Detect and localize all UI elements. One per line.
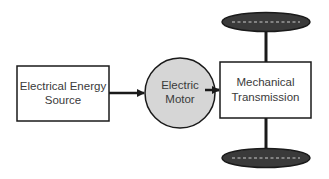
bottom-wheel bbox=[222, 149, 310, 168]
transmission-label-line1: Mechanical bbox=[236, 76, 294, 88]
motor-label-line2: Motor bbox=[165, 93, 195, 105]
mechanical-transmission-node: Mechanical Transmission bbox=[220, 62, 311, 118]
source-label-line1: Electrical Energy bbox=[20, 80, 107, 92]
source-label-line2: Source bbox=[45, 94, 81, 106]
transmission-label-line2: Transmission bbox=[232, 91, 300, 103]
drivetrain-diagram: Electrical Energy Source Electric Motor … bbox=[0, 0, 329, 179]
top-wheel bbox=[222, 13, 310, 32]
motor-label-line1: Electric bbox=[161, 79, 199, 91]
electrical-energy-source-node: Electrical Energy Source bbox=[17, 66, 109, 121]
electric-motor-node: Electric Motor bbox=[145, 58, 215, 128]
